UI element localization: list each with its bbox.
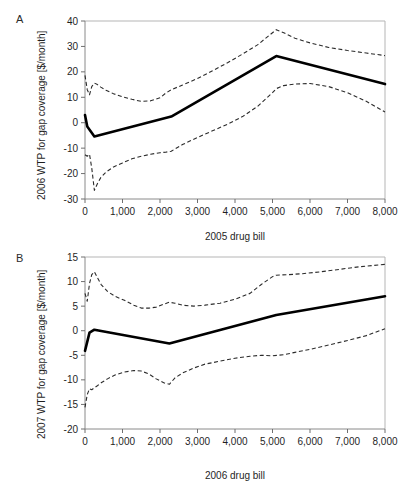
x-tick-label: 5,000 [260,436,285,447]
plot-area-b: -20-15-10-505101501,0002,0003,0004,0005,… [0,245,414,490]
x-tick-label: 2,000 [147,436,172,447]
y-tick-label: -20 [64,424,79,435]
x-tick-label: 2,000 [147,206,172,217]
y-tick-label: -10 [64,374,79,385]
x-tick-label: 4,000 [222,436,247,447]
y-tick-label: 30 [67,41,79,52]
x-tick-label: 0 [82,206,88,217]
chart-panel-a: A 2006 WTP for gap coverage [$/month] -3… [0,0,414,245]
y-tick-label: 20 [67,66,79,77]
y-tick-label: 10 [67,276,79,287]
x-tick-label: 6,000 [297,436,322,447]
y-tick-label: 15 [67,252,79,263]
plot-frame [85,257,385,429]
series-line-mean [85,56,385,136]
x-tick-label: 5,000 [260,206,285,217]
x-axis-label-b: 2006 drug bill [165,470,305,481]
x-axis-label-a: 2005 drug bill [165,231,305,242]
y-tick-label: 10 [67,92,79,103]
x-tick-label: 1,000 [110,436,135,447]
x-tick-label: 8,000 [372,206,397,217]
y-tick-label: -20 [64,168,79,179]
x-tick-label: 8,000 [372,436,397,447]
chart-panel-b: B 2007 WTP for gap coverage [$/month] -2… [0,245,414,490]
y-tick-label: 0 [72,325,78,336]
y-tick-label: -30 [64,194,79,205]
x-tick-label: 7,000 [335,206,360,217]
y-tick-label: 5 [72,301,78,312]
x-tick-label: 4,000 [222,206,247,217]
x-tick-label: 6,000 [297,206,322,217]
x-tick-label: 3,000 [185,206,210,217]
plot-area-a: -30-20-1001020304001,0002,0003,0004,0005… [0,0,414,245]
y-tick-label: -10 [64,143,79,154]
plot-frame [85,21,385,199]
x-tick-label: 1,000 [110,206,135,217]
y-tick-label: 40 [67,16,79,27]
y-tick-label: -15 [64,399,79,410]
series-line-confidence [85,264,385,308]
series-line-confidence [85,329,385,408]
series-line-confidence [85,30,385,102]
y-tick-label: 0 [72,117,78,128]
x-tick-label: 0 [82,436,88,447]
y-tick-label: -5 [69,350,78,361]
x-tick-label: 3,000 [185,436,210,447]
series-line-confidence [85,84,385,191]
x-tick-label: 7,000 [335,436,360,447]
